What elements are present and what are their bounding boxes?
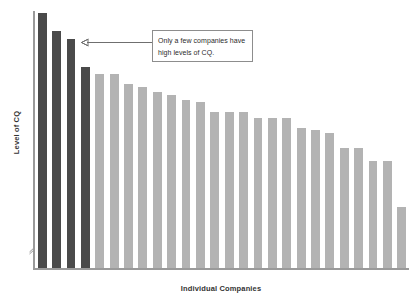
bar [38,13,47,268]
bar [340,148,349,268]
y-axis-title: Level of CQ [12,93,21,173]
bar [268,118,277,268]
bar [95,74,104,268]
bar [167,95,176,268]
bar [311,130,320,268]
bar [182,100,191,268]
bar [210,112,219,268]
bar [138,87,147,268]
bar-chart-figure: Level of CQ Individual Companies Only a … [0,0,418,306]
bar [124,84,133,268]
bar [153,92,162,268]
x-axis-line [33,268,409,270]
bar [196,102,205,268]
annotation-callout-box: Only a few companies have high levels of… [152,30,253,62]
bar [52,31,61,268]
bar [282,118,291,268]
bar [110,74,119,268]
bar [325,133,334,268]
bar [397,207,406,268]
bar [67,39,76,269]
bar [383,161,392,268]
bar [239,112,248,268]
bar [254,118,263,268]
bar [81,67,90,268]
x-axis-title: Individual Companies [33,284,409,293]
bar [354,148,363,268]
bar [369,161,378,268]
annotation-text: Only a few companies have high levels of… [158,35,251,58]
bar [225,112,234,268]
bar [297,128,306,268]
